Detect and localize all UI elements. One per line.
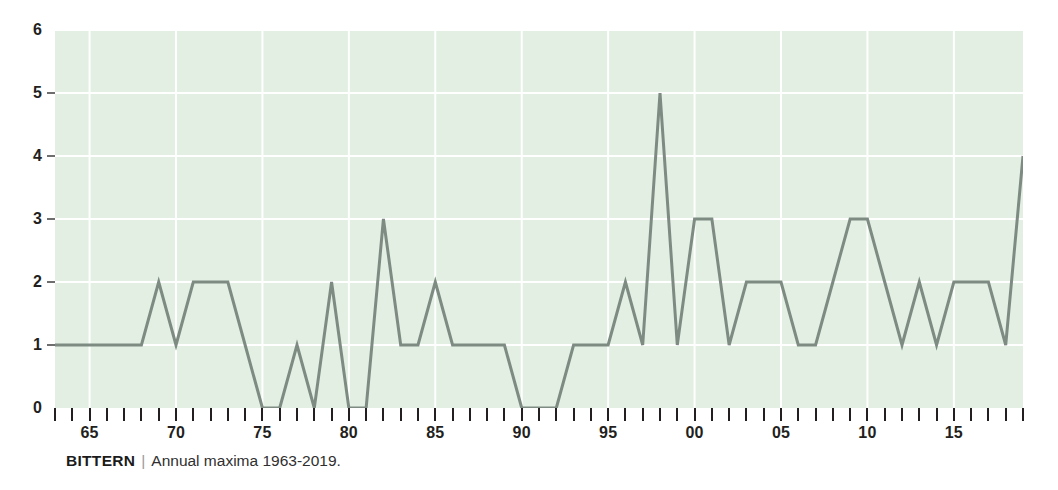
- x-axis-tick-mark: [711, 408, 713, 421]
- y-axis-tick-dash: [47, 92, 55, 94]
- x-axis-tick-mark: [901, 408, 903, 421]
- x-axis-tick-mark: [123, 408, 125, 421]
- y-axis-tick-dash: [47, 218, 55, 220]
- x-axis-tick-mark: [573, 408, 575, 421]
- y-axis-tick-label: 2: [33, 274, 42, 290]
- y-axis-tick-4: 4: [33, 148, 55, 164]
- x-axis-tick-mark: [676, 408, 678, 421]
- x-axis-tick-mark: [918, 408, 920, 421]
- x-axis-tick-mark: [296, 408, 298, 421]
- x-axis-tick-mark: [175, 408, 177, 421]
- x-axis-tick-mark: [590, 408, 592, 421]
- x-axis-tick-mark: [71, 408, 73, 421]
- x-axis-tick-mark: [936, 408, 938, 421]
- y-axis-tick-label: 6: [33, 22, 42, 38]
- y-axis-tick-label: 5: [33, 85, 42, 101]
- x-axis-tick-mark: [884, 408, 886, 421]
- data-series-line: [55, 93, 1023, 408]
- x-axis-tick-mark: [538, 408, 540, 421]
- x-axis-tick-mark: [140, 408, 142, 421]
- x-axis-tick-mark: [815, 408, 817, 421]
- x-axis-tick-mark: [642, 408, 644, 421]
- plot-svg: [55, 30, 1023, 408]
- x-axis-tick-label-70: 70: [167, 424, 185, 442]
- x-axis-tick-mark: [659, 408, 661, 421]
- x-axis-tick-mark: [434, 408, 436, 421]
- x-axis-tick-label-15: 15: [945, 424, 963, 442]
- x-axis-tick-mark: [1005, 408, 1007, 421]
- x-axis-tick-mark: [227, 408, 229, 421]
- x-axis-tick-mark: [987, 408, 989, 421]
- y-axis-tick-2: 2: [33, 274, 55, 290]
- x-axis-tick-mark: [469, 408, 471, 421]
- x-axis: 6570758085909500051015: [55, 408, 1023, 448]
- x-axis-tick-label-05: 05: [772, 424, 790, 442]
- x-axis-tick-mark: [331, 408, 333, 421]
- x-axis-tick-mark: [486, 408, 488, 421]
- x-axis-tick-mark: [382, 408, 384, 421]
- x-axis-tick-mark: [365, 408, 367, 421]
- x-axis-tick-mark: [192, 408, 194, 421]
- x-axis-tick-mark: [866, 408, 868, 421]
- y-axis-tick-label: 0: [33, 400, 42, 416]
- x-axis-tick-mark: [244, 408, 246, 421]
- x-axis-tick-label-85: 85: [426, 424, 444, 442]
- y-axis-tick-label: 1: [33, 337, 42, 353]
- x-axis-tick-mark: [106, 408, 108, 421]
- y-axis-tick-3: 3: [33, 211, 55, 227]
- x-axis-tick-label-95: 95: [599, 424, 617, 442]
- x-axis-tick-mark: [400, 408, 402, 421]
- x-axis-tick-mark: [970, 408, 972, 421]
- x-axis-tick-mark: [555, 408, 557, 421]
- x-axis-tick-mark: [452, 408, 454, 421]
- x-axis-tick-mark: [313, 408, 315, 421]
- caption-species: BITTERN: [66, 452, 135, 470]
- x-axis-tick-mark: [953, 408, 955, 421]
- x-axis-tick-mark: [210, 408, 212, 421]
- x-axis-tick-label-00: 00: [685, 424, 703, 442]
- x-axis-tick-mark: [158, 408, 160, 421]
- bittern-annual-maxima-chart: 0123456 6570758085909500051015 BITTERN |…: [0, 0, 1058, 490]
- y-axis-tick-dash: [47, 155, 55, 157]
- caption-separator: |: [141, 452, 145, 470]
- x-axis-tick-mark: [780, 408, 782, 421]
- y-axis-tick-label: 3: [33, 211, 42, 227]
- x-axis-tick-mark: [849, 408, 851, 421]
- y-axis-tick-1: 1: [33, 337, 55, 353]
- horizontal-gridlines: [55, 30, 1023, 345]
- x-axis-tick-mark: [348, 408, 350, 421]
- x-axis-tick-mark: [261, 408, 263, 421]
- chart-caption: BITTERN | Annual maxima 1963-2019.: [66, 452, 341, 470]
- x-axis-tick-mark: [694, 408, 696, 421]
- caption-description: Annual maxima 1963-2019.: [151, 452, 341, 470]
- x-axis-tick-mark: [279, 408, 281, 421]
- x-axis-tick-label-65: 65: [80, 424, 98, 442]
- x-axis-tick-label-80: 80: [340, 424, 358, 442]
- y-axis-tick-dash: [47, 344, 55, 346]
- x-axis-tick-mark: [832, 408, 834, 421]
- plot-area: [55, 30, 1023, 408]
- x-axis-tick-mark: [503, 408, 505, 421]
- x-axis-tick-mark: [797, 408, 799, 421]
- x-axis-tick-mark: [728, 408, 730, 421]
- x-axis-tick-label-90: 90: [513, 424, 531, 442]
- x-axis-tick-label-10: 10: [858, 424, 876, 442]
- x-axis-tick-mark: [745, 408, 747, 421]
- x-axis-tick-mark: [89, 408, 91, 421]
- x-axis-tick-mark: [1022, 408, 1024, 421]
- y-axis-tick-5: 5: [33, 85, 55, 101]
- y-axis: 0123456: [0, 30, 55, 408]
- x-axis-tick-mark: [607, 408, 609, 421]
- y-axis-tick-0: 0: [33, 400, 55, 416]
- x-axis-tick-label-75: 75: [253, 424, 271, 442]
- y-axis-tick-dash: [47, 281, 55, 283]
- x-axis-tick-mark: [417, 408, 419, 421]
- x-axis-tick-mark: [521, 408, 523, 421]
- x-axis-tick-mark: [54, 408, 56, 421]
- x-axis-tick-mark: [624, 408, 626, 421]
- y-axis-tick-label: 4: [33, 148, 42, 164]
- y-axis-tick-6: 6: [33, 22, 55, 38]
- x-axis-tick-mark: [763, 408, 765, 421]
